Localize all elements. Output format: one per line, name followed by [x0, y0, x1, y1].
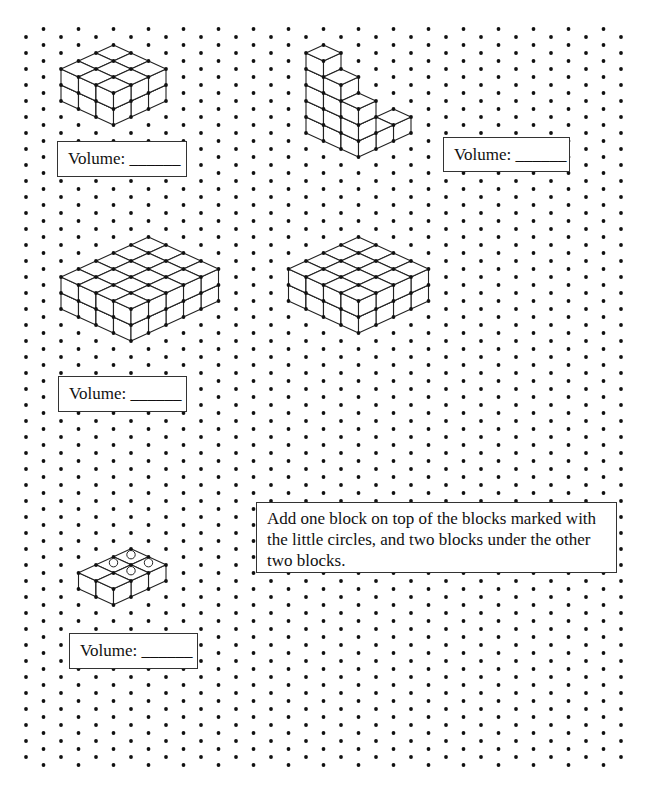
volume-label-1: Volume: ______ [68, 149, 181, 169]
shape-1 [61, 45, 166, 125]
volume-box-2: Volume: ______ [443, 137, 570, 172]
volume-box-1: Volume: ______ [57, 141, 187, 177]
instruction-text: Add one block on top of the blocks marke… [267, 509, 596, 570]
volume-box-4: Volume: ______ [69, 633, 198, 669]
marker-circle-icon [144, 559, 152, 567]
marker-circle-icon [127, 567, 135, 575]
shape-5-marked [79, 549, 167, 605]
marker-circle-icon [109, 559, 117, 567]
volume-label-3: Volume: ______ [69, 384, 182, 404]
isometric-worksheet: Volume: ______ Volume: ______ Volume: __… [0, 0, 648, 796]
shape-3 [61, 237, 219, 341]
volume-label-4: Volume: ______ [80, 641, 193, 661]
instruction-box: Add one block on top of the blocks marke… [256, 502, 617, 573]
marker-circle-icon [127, 551, 135, 559]
volume-box-3: Volume: ______ [58, 376, 187, 412]
volume-label-2: Volume: ______ [454, 145, 567, 165]
